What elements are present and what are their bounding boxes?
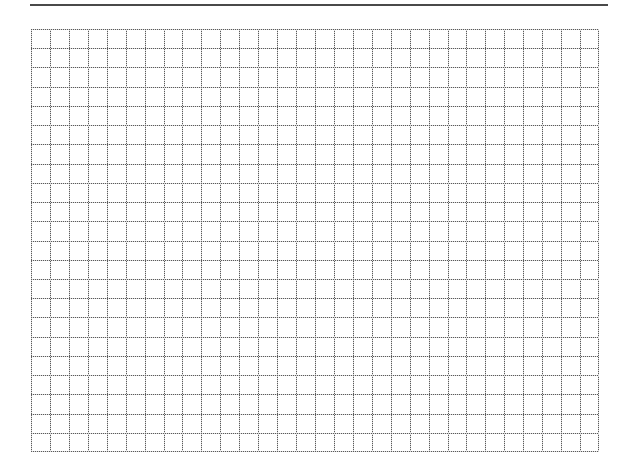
grid-line-horizontal — [31, 356, 599, 357]
grid-line-horizontal — [31, 125, 599, 126]
grid-line-horizontal — [31, 221, 599, 222]
grid-line-horizontal — [31, 164, 599, 165]
grid-line-horizontal — [31, 260, 599, 261]
grid-line-horizontal — [31, 298, 599, 299]
grid-line-horizontal — [31, 144, 599, 145]
grid-line-horizontal — [31, 241, 599, 242]
grid-line-horizontal — [31, 106, 599, 107]
grid-line-horizontal — [31, 414, 599, 415]
grid-line-horizontal — [31, 394, 599, 395]
grid-line-horizontal — [31, 67, 599, 68]
grid-line-horizontal — [31, 451, 599, 452]
header-rule — [30, 4, 608, 6]
grid-line-horizontal — [31, 183, 599, 184]
grid-line-horizontal — [31, 87, 599, 88]
grid-line-horizontal — [31, 48, 599, 49]
grid-line-horizontal — [31, 433, 599, 434]
grid-line-horizontal — [31, 337, 599, 338]
grid-line-horizontal — [31, 317, 599, 318]
dotted-grid — [31, 29, 599, 452]
grid-line-horizontal — [31, 375, 599, 376]
grid-line-horizontal — [31, 29, 599, 30]
grid-line-horizontal — [31, 279, 599, 280]
grid-line-horizontal — [31, 202, 599, 203]
